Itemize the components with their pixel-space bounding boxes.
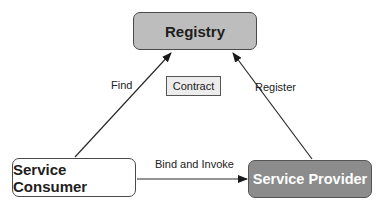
- service-consumer-node: Service Consumer: [12, 158, 136, 197]
- service-provider-label: Service Provider: [253, 171, 367, 187]
- register-edge-label: Register: [255, 81, 296, 93]
- registry-node: Registry: [133, 12, 257, 50]
- find-arrow: [75, 53, 171, 157]
- find-edge-label: Find: [111, 79, 132, 91]
- contract-label: Contract: [173, 80, 215, 92]
- service-consumer-label: Service Consumer: [13, 161, 135, 195]
- registry-label: Registry: [165, 23, 225, 40]
- register-arrow: [233, 53, 312, 159]
- service-provider-node: Service Provider: [248, 160, 372, 198]
- bind-invoke-edge-label: Bind and Invoke: [155, 158, 234, 170]
- contract-node: Contract: [166, 76, 221, 96]
